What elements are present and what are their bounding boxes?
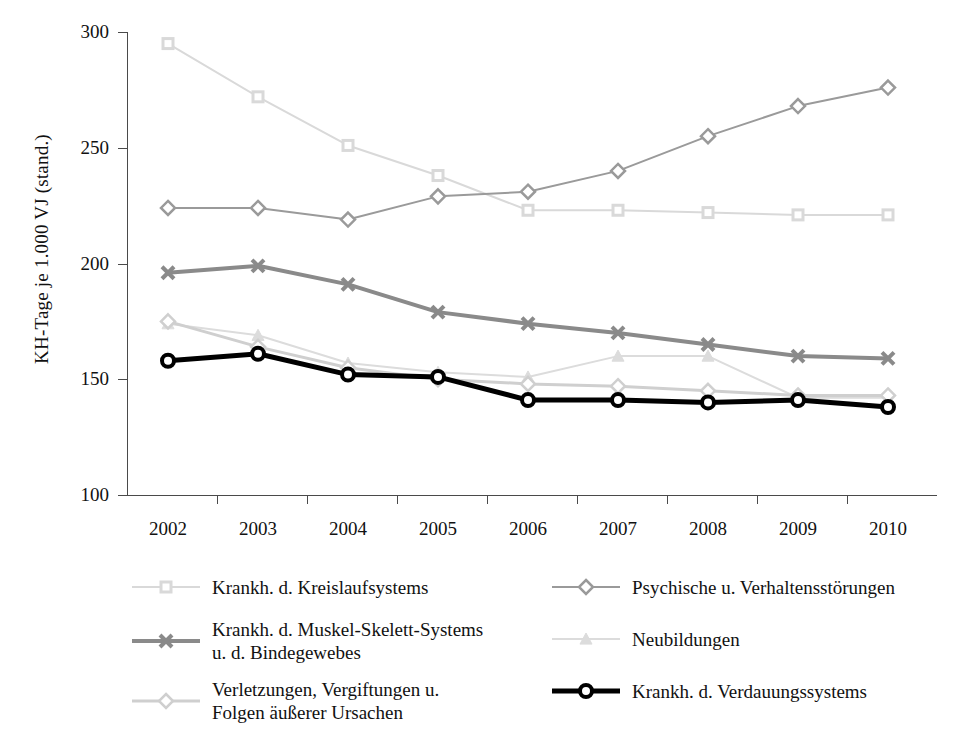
- data-point: [252, 348, 264, 360]
- x-tick-label: 2003: [239, 518, 277, 540]
- data-point: [881, 81, 895, 95]
- y-tick-label: 100: [49, 484, 109, 506]
- legend-key-icon: [550, 574, 622, 600]
- legend-label: Krankh. d. Verdauungssystems: [632, 680, 867, 703]
- legend-item[interactable]: Krankh. d. Muskel-Skelett-Systems u. d. …: [130, 618, 483, 664]
- data-point: [523, 205, 533, 215]
- legend-key-icon: [130, 688, 202, 714]
- x-tick-mark: [667, 495, 668, 504]
- data-point: [253, 92, 263, 102]
- y-tick-mark: [118, 32, 127, 33]
- data-point: [162, 355, 174, 367]
- x-tick-mark: [577, 495, 578, 504]
- y-tick-label: 300: [49, 21, 109, 43]
- data-point: [791, 99, 805, 113]
- data-point: [343, 140, 353, 150]
- x-tick-label: 2005: [419, 518, 457, 540]
- data-point: [611, 379, 625, 393]
- data-point: [882, 401, 894, 413]
- y-axis-title: KH-Tage je 1.000 VJ (stand.): [31, 39, 53, 459]
- data-point: [433, 171, 443, 181]
- data-point: [522, 394, 534, 406]
- data-point: [613, 205, 623, 215]
- x-tick-label: 2006: [509, 518, 547, 540]
- legend-key-icon: [130, 628, 202, 654]
- x-tick-label: 2002: [149, 518, 187, 540]
- legend-label: Neubildungen: [632, 628, 740, 651]
- x-tick-mark: [217, 495, 218, 504]
- legend-item[interactable]: Verletzungen, Vergiftungen u. Folgen äuß…: [130, 678, 439, 724]
- line-chart: KH-Tage je 1.000 VJ (stand.) 30025020015…: [0, 0, 964, 746]
- legend-key-icon: [550, 626, 622, 652]
- y-tick-label: 250: [49, 137, 109, 159]
- x-tick-label: 2004: [329, 518, 367, 540]
- legend-item[interactable]: Psychische u. Verhaltensstörungen: [550, 574, 895, 600]
- x-tick-label: 2010: [869, 518, 907, 540]
- data-point: [703, 208, 713, 218]
- data-point: [521, 185, 535, 199]
- data-point: [341, 213, 355, 227]
- data-point: [883, 210, 893, 220]
- series-layer: [127, 32, 937, 496]
- y-tick-mark: [118, 264, 127, 265]
- x-tick-mark: [757, 495, 758, 504]
- data-point: [251, 201, 265, 215]
- legend-item[interactable]: Neubildungen: [550, 626, 740, 652]
- x-tick-mark: [487, 495, 488, 504]
- data-point: [612, 394, 624, 406]
- legend-item[interactable]: Krankh. d. Verdauungssystems: [550, 678, 867, 704]
- legend-label: Psychische u. Verhaltensstörungen: [632, 576, 895, 599]
- y-tick-mark: [118, 495, 127, 496]
- legend-item[interactable]: Krankh. d. Kreislaufsystems: [130, 574, 428, 600]
- data-point: [792, 394, 804, 406]
- legend-label: Verletzungen, Vergiftungen u. Folgen äuß…: [212, 678, 439, 724]
- legend-label: Krankh. d. Muskel-Skelett-Systems u. d. …: [212, 618, 483, 664]
- legend-label: Krankh. d. Kreislaufsystems: [212, 576, 428, 599]
- legend-key-icon: [550, 678, 622, 704]
- legend-key-icon: [130, 574, 202, 600]
- y-tick-label: 150: [49, 368, 109, 390]
- series-line: [168, 266, 888, 359]
- y-tick-mark: [118, 148, 127, 149]
- data-point: [702, 396, 714, 408]
- x-tick-label: 2009: [779, 518, 817, 540]
- data-point: [793, 210, 803, 220]
- data-point: [342, 369, 354, 381]
- x-tick-label: 2008: [689, 518, 727, 540]
- x-tick-label: 2007: [599, 518, 637, 540]
- data-point: [431, 189, 445, 203]
- chart-legend: Krankh. d. KreislaufsystemsKrankh. d. Mu…: [130, 570, 950, 730]
- data-point: [432, 371, 444, 383]
- y-tick-label: 200: [49, 253, 109, 275]
- data-point: [701, 129, 715, 143]
- y-tick-mark: [118, 379, 127, 380]
- x-tick-mark: [307, 495, 308, 504]
- plot-area: 300250200150100 200220032004200520062007…: [127, 32, 937, 495]
- data-point: [163, 39, 173, 49]
- x-tick-mark: [847, 495, 848, 504]
- data-point: [161, 201, 175, 215]
- data-point: [611, 164, 625, 178]
- x-tick-mark: [397, 495, 398, 504]
